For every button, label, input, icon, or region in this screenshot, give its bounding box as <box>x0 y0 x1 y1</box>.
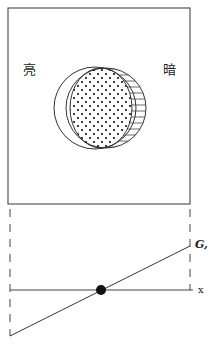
dark-label: 暗 <box>163 63 176 76</box>
intersection-point <box>96 285 106 295</box>
g-axis-label: G, <box>195 239 208 250</box>
bright-label: 亮 <box>23 63 36 76</box>
dotted-ellipse <box>70 68 132 148</box>
diagram-canvas <box>0 0 214 353</box>
x-axis-label: x <box>198 285 204 295</box>
